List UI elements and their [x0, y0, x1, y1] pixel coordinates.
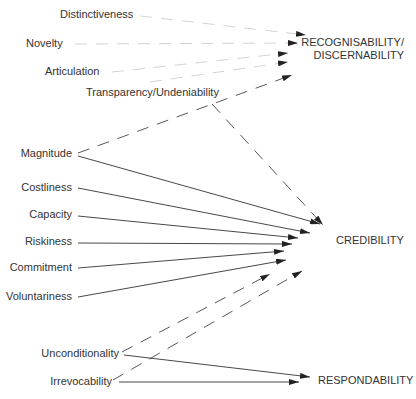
edge-articulation-to-recognisability [112, 53, 288, 72]
source-labels-layer: DistinctivenessNoveltyArticulationTransp… [6, 8, 219, 387]
source-label-costliness: Costliness [21, 181, 72, 193]
source-label-articulation: Articulation [45, 65, 99, 77]
target-label-credibility: CREDIBILITY [336, 234, 405, 246]
edge-transparency-to-credibility [212, 104, 323, 225]
target-labels-layer: RECOGNISABILITY/DISCERNABILITYCREDIBILIT… [301, 36, 414, 386]
source-label-irrevocability: Irrevocability [50, 375, 112, 387]
source-label-commitment: Commitment [10, 261, 72, 273]
edge-capacity-to-credibility [78, 216, 298, 238]
target-label-line: RECOGNISABILITY/ [301, 36, 405, 48]
concept-diagram: DistinctivenessNoveltyArticulationTransp… [0, 0, 416, 399]
edges-layer [75, 16, 323, 382]
edge-magnitude-to-credibility [78, 156, 320, 224]
edge-unconditionality-to-credibility [122, 274, 270, 352]
source-label-transparency: Transparency/Undeniability [86, 86, 219, 98]
source-label-voluntariness: Voluntariness [6, 290, 73, 302]
edge-irrevocability-to-credibility [113, 271, 302, 380]
edge-distinctiveness-to-recognisability [140, 16, 306, 35]
source-label-magnitude: Magnitude [21, 147, 72, 159]
source-label-distinctiveness: Distinctiveness [60, 8, 134, 20]
edge-transparency-to-recognisability [150, 62, 288, 82]
target-label-recognisability: RECOGNISABILITY/DISCERNABILITY [301, 36, 405, 61]
edge-novelty-to-recognisability [75, 43, 298, 44]
source-label-capacity: Capacity [29, 208, 72, 220]
source-label-riskiness: Riskiness [25, 235, 73, 247]
edge-costliness-to-credibility [78, 188, 310, 233]
source-label-novelty: Novelty [26, 37, 63, 49]
edge-riskiness-to-credibility [78, 243, 292, 244]
target-label-respondability: RESPONDABILITY [318, 374, 414, 386]
target-label-line: DISCERNABILITY [314, 49, 405, 61]
edge-unconditionality-to-respondability [124, 355, 310, 377]
source-label-unconditionality: Unconditionality [41, 347, 119, 359]
